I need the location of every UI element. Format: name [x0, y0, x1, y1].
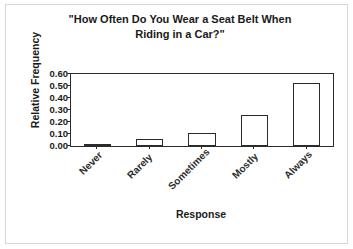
y-axis-tick-label: 0.50: [40, 81, 68, 90]
x-axis-category-label: Always: [282, 148, 314, 180]
y-axis-tick-label: 0.00: [40, 141, 68, 150]
x-axis-tick-mark: [149, 146, 150, 149]
chart-title-line-1: "How Often Do You Wear a Seat Belt When: [69, 13, 292, 25]
y-axis-tick-label: 0.10: [40, 129, 68, 138]
y-axis-tick-label: 0.20: [40, 117, 68, 126]
x-axis-category-labels: NeverRarelySometimesMostlyAlways: [70, 150, 332, 198]
chart-title-line-2: Riding in a Car?": [40, 27, 320, 42]
x-axis-title: Response: [70, 208, 332, 220]
y-axis-tick-label: 0.40: [40, 93, 68, 102]
y-axis-tick-label: 0.60: [40, 69, 68, 78]
bar-sometimes: [188, 133, 215, 146]
chart-title: "How Often Do You Wear a Seat Belt When …: [40, 12, 320, 42]
bar-always: [293, 83, 320, 146]
bars-layer: [71, 74, 333, 146]
bar-rarely: [136, 139, 163, 146]
y-axis-tick-labels: 0.000.100.200.300.400.500.60: [40, 73, 68, 145]
x-axis-category-label: Never: [77, 149, 104, 176]
chart-figure: "How Often Do You Wear a Seat Belt When …: [0, 0, 353, 249]
plot-area: [70, 73, 334, 147]
x-axis-tick-mark: [253, 146, 254, 149]
x-axis-category-label: Mostly: [230, 150, 260, 180]
bar-mostly: [241, 115, 268, 146]
y-axis-tick-label: 0.30: [40, 105, 68, 114]
x-axis-category-label: Rarely: [125, 151, 154, 180]
x-axis-category-label: Sometimes: [166, 146, 212, 192]
